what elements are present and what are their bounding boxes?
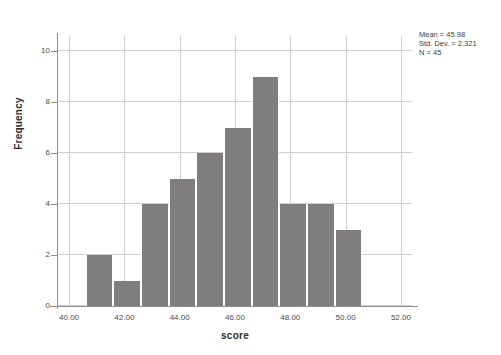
- x-tick-label: 50.00: [316, 313, 376, 322]
- y-tick-label-wrap: 10: [14, 47, 50, 55]
- x-tick-label: 44.00: [150, 313, 210, 322]
- histogram-bar: [86, 255, 114, 306]
- x-axis-line: [50, 306, 418, 307]
- y-axis-title: Frequency: [13, 64, 24, 184]
- bars-layer: [58, 36, 412, 306]
- y-tick-label: 4: [20, 200, 50, 208]
- y-axis-line: [57, 33, 58, 309]
- x-tick-label: 48.00: [260, 313, 320, 322]
- x-axis-title: score: [58, 330, 412, 341]
- y-tick-label: 10: [20, 47, 50, 55]
- y-tick-label: 6: [20, 149, 50, 157]
- histogram-bar: [307, 204, 335, 306]
- histogram-bar: [169, 179, 197, 306]
- stddev-text: Std. Dev. = 2.321: [419, 39, 477, 48]
- plot-area: [58, 36, 412, 306]
- y-tick-label: 0: [20, 302, 50, 310]
- x-tick-label: 52.00: [371, 313, 431, 322]
- y-tick-mark: [51, 102, 57, 103]
- y-tick-label: 8: [20, 98, 50, 106]
- sample-size-text: N = 45: [419, 48, 477, 57]
- statistics-annotation: Mean = 45.98 Std. Dev. = 2.321 N = 45: [419, 30, 477, 58]
- x-tick-label: 46.00: [205, 313, 265, 322]
- y-tick-label-wrap: 2: [14, 251, 50, 259]
- y-tick-mark: [51, 204, 57, 205]
- histogram-bar: [113, 281, 141, 306]
- y-tick-label-wrap: 0: [14, 302, 50, 310]
- y-tick-mark: [51, 306, 57, 307]
- histogram-bar: [252, 77, 280, 306]
- y-tick-mark: [51, 51, 57, 52]
- histogram-bar: [141, 204, 169, 306]
- histogram-bar: [335, 230, 363, 306]
- histogram-chart: 0246810 40.0042.0044.0046.0048.0050.0052…: [0, 0, 501, 355]
- x-tick-label: 42.00: [94, 313, 154, 322]
- mean-text: Mean = 45.98: [419, 30, 477, 39]
- histogram-bar: [279, 204, 307, 306]
- y-tick-mark: [51, 153, 57, 154]
- histogram-bar: [196, 153, 224, 306]
- x-tick-label: 40.00: [39, 313, 99, 322]
- y-tick-label: 2: [20, 251, 50, 259]
- y-tick-label-wrap: 4: [14, 200, 50, 208]
- y-tick-mark: [51, 255, 57, 256]
- histogram-bar: [224, 128, 252, 306]
